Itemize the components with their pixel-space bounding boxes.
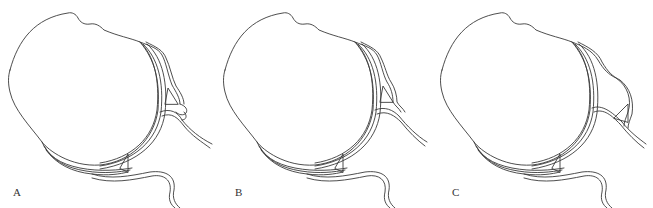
panel-label-c: C <box>452 186 459 198</box>
diagram-c-drawing <box>432 0 650 208</box>
panel-c: C <box>432 0 650 208</box>
body-outline <box>224 13 374 165</box>
body-outline <box>441 13 591 165</box>
body-outline <box>9 13 159 165</box>
diagram-b-drawing <box>215 0 433 208</box>
panel-a: A <box>0 0 218 208</box>
panel-label-b: B <box>235 186 242 198</box>
panel-b: B <box>215 0 433 208</box>
panel-label-a: A <box>13 186 21 198</box>
diagram-a-drawing <box>0 0 218 208</box>
